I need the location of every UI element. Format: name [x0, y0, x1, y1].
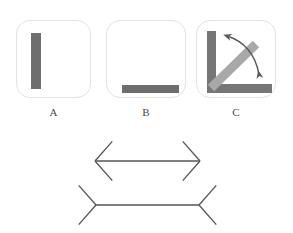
muller-lyer-outward-fin-left-bottom [95, 161, 112, 181]
vector-overlay [0, 0, 293, 233]
muller-lyer-outward-fin-right-top [183, 141, 200, 161]
muller-lyer-inward-figure [79, 185, 217, 224]
muller-lyer-outward-fin-left-top [95, 141, 112, 161]
muller-lyer-outward-figure [95, 141, 200, 180]
figure-canvas: A B C [0, 0, 293, 233]
muller-lyer-inward-fin-right-top [199, 185, 216, 205]
muller-lyer-inward-fin-left-bottom [79, 205, 96, 225]
muller-lyer-inward-fin-left-top [79, 185, 96, 205]
muller-lyer-inward-fin-right-bottom [199, 205, 216, 225]
muller-lyer-outward-fin-right-bottom [183, 161, 200, 181]
